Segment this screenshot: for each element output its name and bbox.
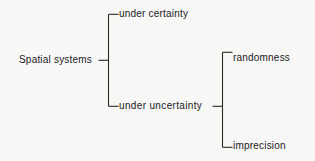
node-randomness: randomness	[233, 52, 290, 63]
node-spatial-systems: Spatial systems	[19, 54, 92, 65]
node-imprecision: imprecision	[233, 140, 286, 151]
tree-connector-lines	[0, 0, 315, 161]
node-under-certainty: under certainty	[119, 8, 188, 19]
diagram-canvas: Spatial systems under certainty under un…	[0, 0, 315, 161]
node-under-uncertainty: under uncertainty	[119, 100, 202, 111]
